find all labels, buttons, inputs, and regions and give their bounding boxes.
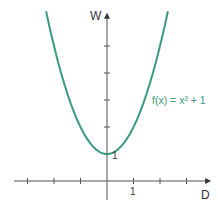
y-axis-label: W (90, 10, 101, 22)
function-annotation: f(x) = x² + 1 (152, 94, 206, 106)
vertex-value-label: 1 (112, 150, 118, 162)
x-tick-label-1: 1 (130, 186, 136, 198)
function-graph (0, 0, 218, 213)
x-axis-label: D (201, 189, 210, 201)
